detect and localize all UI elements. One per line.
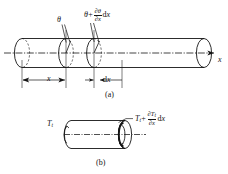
partial-T-partial-x-fraction: ∂Tt ∂x [147,111,157,127]
caption-a: (a) [105,91,114,99]
partial-theta-partial-x-fraction: ∂θ ∂x [94,8,102,23]
figure-drawing [0,0,228,174]
theta-plus-gradient-expression: θ + ∂θ ∂x dx [84,8,110,23]
dimension-dx-label: dx [103,76,111,84]
figure-container: θ θ + ∂θ ∂x dx x x dx (a) Tt Tt + ∂Tt ∂x… [0,0,228,174]
plus-operator: + [88,11,93,19]
axis-x-label: x [218,56,222,64]
plus-operator-torque: + [141,115,146,123]
theta-leader-lines [62,23,99,43]
theta-label: θ [57,16,61,24]
torque-plus-gradient-expression: Tt + ∂Tt ∂x dx [135,111,165,127]
torque-left-label: Tt [47,120,53,129]
fraction-denominator-torque: ∂x [148,119,156,127]
dx-term-torque: dx [157,115,165,123]
element-assembly-b [64,119,146,149]
caption-b: (b) [96,159,105,167]
twist-radius-lines [66,41,100,53]
fraction-numerator: ∂θ [94,8,102,15]
dimension-x-label: x [47,75,51,83]
dx-term: dx [102,11,110,19]
fraction-denominator: ∂x [94,15,102,23]
fraction-numerator-torque: ∂Tt [147,111,157,119]
